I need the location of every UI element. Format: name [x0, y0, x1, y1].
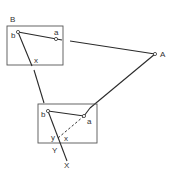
label-top-a: a: [54, 28, 59, 37]
point-A: [153, 52, 156, 55]
diagram-canvas: B b a x A b a y x Y X: [0, 0, 173, 172]
label-top-x: x: [34, 56, 38, 65]
label-bottom-x: x: [64, 134, 68, 143]
label-Y: Y: [52, 146, 58, 155]
top-ray-b-x: [18, 32, 32, 66]
bottom-point-a: [82, 114, 85, 117]
bottom-point-b: [46, 109, 49, 112]
label-B: B: [10, 15, 15, 24]
label-X: X: [64, 161, 70, 170]
bottom-ray-b-a: [48, 111, 84, 116]
label-bottom-a: a: [87, 117, 92, 126]
label-bottom-y: y: [51, 133, 55, 142]
dashed-ray-a: [58, 116, 84, 138]
top-point-a: [54, 37, 57, 40]
label-A: A: [160, 50, 166, 59]
ray-A-to-bottom: [90, 54, 155, 108]
label-bottom-b: b: [41, 110, 46, 119]
ray-to-A-from-top: [70, 41, 155, 54]
label-top-b: b: [11, 31, 16, 40]
top-point-b: [16, 30, 19, 33]
ray-between-boards: [34, 70, 44, 103]
